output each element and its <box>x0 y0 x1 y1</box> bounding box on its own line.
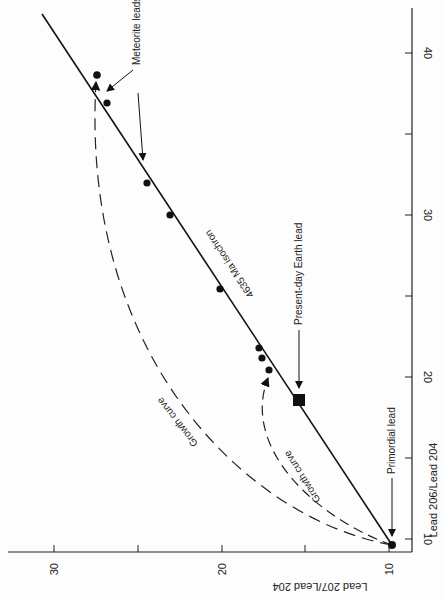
growth-outer-label: Growth curve <box>154 395 200 449</box>
meteorite-arrow-2 <box>138 93 143 160</box>
tick-r20: 20 <box>422 371 434 383</box>
tick-b10: 10 <box>383 563 395 575</box>
growth-curve-inner <box>262 378 392 545</box>
present-day-marker <box>293 394 305 406</box>
meteorite-label: Meteorite leads <box>131 0 142 65</box>
primordial-point <box>388 541 396 549</box>
isochron-line <box>42 14 392 545</box>
growth-inner-label: Growth curve <box>281 448 322 505</box>
isochron-label: 4635 Ma isochron <box>202 228 256 300</box>
present-day-label: Present-day Earth lead <box>293 223 304 325</box>
axis-207-204: 10 20 30 Lead 207/Lead 204 <box>8 545 412 593</box>
tick-r30: 30 <box>422 209 434 221</box>
isochron-chart: 10 20 30 40 Lead 206/Lead 204 10 20 30 L… <box>0 0 443 601</box>
tick-b20: 20 <box>216 563 228 575</box>
meteorite-arrow-1 <box>107 70 133 91</box>
primordial-label: Primordial lead <box>386 407 397 474</box>
y-axis-label: Lead 207/Lead 204 <box>273 581 368 593</box>
tick-b30: 30 <box>48 563 60 575</box>
tick-r40: 40 <box>422 47 434 59</box>
axis-206-204: 10 20 30 40 Lead 206/Lead 204 <box>405 8 439 552</box>
meteorite-points <box>93 71 272 373</box>
x-axis-label: Lead 206/Lead 204 <box>427 443 439 538</box>
growth-curve-outer <box>95 82 392 545</box>
